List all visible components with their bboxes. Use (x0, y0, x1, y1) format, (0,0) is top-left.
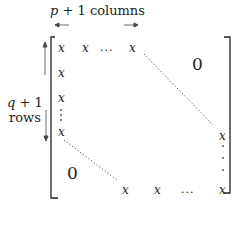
row-count-label: q + 1 rows (7, 96, 43, 124)
left-bracket (51, 37, 58, 198)
row-label-text: rows (7, 111, 43, 124)
matrix-cell: x (58, 67, 65, 79)
ellipsis: ... (100, 42, 114, 53)
left-vertical-dots (60, 109, 62, 121)
matrix-cell: x (129, 42, 136, 54)
matrix-cell: x (82, 42, 89, 54)
ellipsis: ... (181, 184, 195, 195)
matrix-cell: x (58, 126, 65, 138)
matrix-cell: x (58, 42, 65, 54)
matrix-cell: x (122, 184, 129, 196)
matrix-cell: x (154, 184, 161, 196)
matrix-cell: x (219, 130, 226, 142)
right-vertical-dots (222, 145, 224, 171)
lower-zero: 0 (67, 165, 78, 182)
matrix-cell: x (58, 92, 65, 104)
upper-zero: 0 (192, 56, 203, 73)
right-bracket (224, 37, 230, 193)
row-arrow-down-icon (44, 110, 48, 141)
matrix-cell: x (219, 184, 226, 196)
row-label-plus: + 1 (15, 95, 42, 110)
column-arrow-left-icon (55, 23, 69, 27)
column-arrow-right-icon (124, 23, 138, 27)
row-arrow-up-icon (43, 42, 47, 75)
